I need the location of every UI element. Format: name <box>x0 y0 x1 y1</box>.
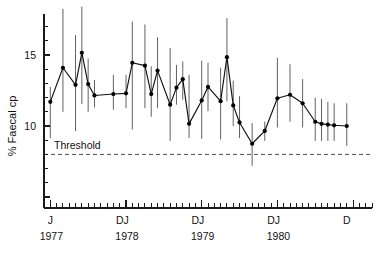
x-label-year: 1978 <box>115 230 139 242</box>
data-point-marker <box>174 86 178 90</box>
data-point-marker <box>345 124 349 128</box>
chart-figure: 15 10 % Faecal cp Threshold J1977J1978J1… <box>0 0 387 255</box>
data-point-marker <box>73 83 77 87</box>
data-markers-group <box>48 51 349 146</box>
data-point-marker <box>326 122 330 126</box>
x-label-december: D <box>343 214 351 226</box>
x-label-december: D <box>192 214 200 226</box>
data-point-marker <box>225 55 229 59</box>
data-point-marker <box>80 51 84 55</box>
data-point-marker <box>92 93 96 97</box>
data-point-marker <box>130 61 134 65</box>
axis-labels-group: 15 10 % Faecal cp Threshold J1977J1978J1… <box>6 49 351 242</box>
data-point-marker <box>319 122 323 126</box>
data-point-marker <box>86 82 90 86</box>
data-point-marker <box>124 91 128 95</box>
data-point-marker <box>155 69 159 73</box>
data-point-marker <box>48 100 52 104</box>
data-point-marker <box>200 98 204 102</box>
x-label-december: D <box>116 214 124 226</box>
data-point-marker <box>168 103 172 107</box>
data-point-marker <box>111 92 115 96</box>
data-point-marker <box>231 103 235 107</box>
data-point-marker <box>250 142 254 146</box>
x-label-january: J <box>275 214 280 226</box>
data-point-marker <box>219 99 223 103</box>
y-tick-label-15: 15 <box>24 49 36 61</box>
data-point-marker <box>263 129 267 133</box>
line-chart-plot: 15 10 % Faecal cp Threshold J1977J1978J1… <box>0 0 387 255</box>
data-point-marker <box>301 101 305 105</box>
threshold-label: Threshold <box>54 139 101 151</box>
data-point-marker <box>332 123 336 127</box>
y-axis-ticks <box>44 27 50 197</box>
data-point-marker <box>149 92 153 96</box>
x-label-january: J <box>123 214 128 226</box>
data-point-marker <box>187 122 191 126</box>
x-axis-labels: J1977J1978J1979J1980DDDD <box>40 214 351 242</box>
x-label-year: 1979 <box>191 230 215 242</box>
data-point-marker <box>275 96 279 100</box>
x-label-january: J <box>199 214 204 226</box>
data-point-marker <box>181 77 185 81</box>
y-axis-title: % Faecal cp <box>6 96 18 157</box>
x-axis-ticks <box>44 200 372 208</box>
data-point-marker <box>61 66 65 70</box>
x-label-december: D <box>267 214 275 226</box>
data-point-marker <box>143 64 147 68</box>
data-point-marker <box>206 85 210 89</box>
x-label-year: 1977 <box>40 230 64 242</box>
x-label-year: 1980 <box>267 230 291 242</box>
x-label-january: J <box>48 214 53 226</box>
data-point-marker <box>237 120 241 124</box>
data-point-marker <box>313 120 317 124</box>
y-tick-label-10: 10 <box>24 120 36 132</box>
data-point-marker <box>288 93 292 97</box>
